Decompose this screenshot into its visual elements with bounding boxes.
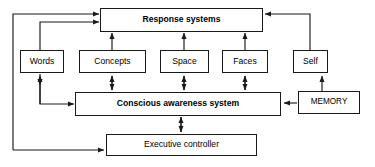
- node-space-label: Space: [172, 57, 196, 66]
- node-space[interactable]: Space: [160, 50, 209, 73]
- node-self[interactable]: Self: [293, 50, 328, 73]
- node-memory-label: MEMORY: [311, 98, 348, 107]
- node-executive-controller-label: Executive controller: [144, 140, 219, 149]
- node-faces[interactable]: Faces: [222, 50, 268, 73]
- node-self-label: Self: [303, 57, 318, 66]
- node-conscious-awareness-system-label: Conscious awareness system: [117, 99, 239, 108]
- node-words-label: Words: [30, 57, 55, 66]
- node-executive-controller[interactable]: Executive controller: [106, 134, 257, 156]
- node-conscious-awareness-system[interactable]: Conscious awareness system: [75, 92, 281, 116]
- node-concepts[interactable]: Concepts: [79, 50, 146, 73]
- edge-words-to-response: [40, 22, 99, 50]
- node-response-systems-label: Response systems: [143, 15, 221, 24]
- edge-left-feed-to-conscious: [40, 85, 74, 104]
- node-faces-label: Faces: [233, 57, 256, 66]
- node-response-systems[interactable]: Response systems: [100, 8, 263, 32]
- node-memory[interactable]: MEMORY: [298, 91, 360, 114]
- node-concepts-label: Concepts: [94, 57, 130, 66]
- node-words[interactable]: Words: [20, 50, 64, 73]
- diagram-canvas: Response systems Words Concepts Space Fa…: [0, 0, 375, 167]
- edge-executive-to-response: [13, 14, 99, 150]
- edge-self-to-response: [265, 14, 310, 50]
